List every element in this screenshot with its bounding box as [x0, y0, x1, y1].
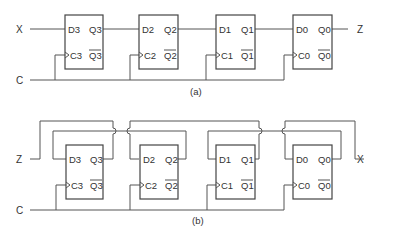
input-z-label: Z [16, 154, 22, 165]
pin-c0: C0 [298, 50, 310, 61]
caption-a: (a) [190, 86, 202, 97]
pin-d0: D0 [296, 24, 308, 35]
output-z-label: Z [357, 24, 363, 35]
pin-d0: D0 [296, 154, 308, 165]
pin-d2: D2 [142, 24, 154, 35]
diagram-a: X Z C D3 Q3 C3 Q3 D2 Q2 C2 [16, 15, 363, 97]
pin-c2: C2 [145, 180, 157, 191]
pin-q0: Q0 [318, 154, 331, 165]
pin-q2-bar: Q2 [164, 50, 177, 61]
pin-d1: D1 [219, 24, 231, 35]
clock-c-label: C [16, 205, 23, 216]
wire-d2-to-q1-end [255, 134, 259, 159]
wire-d2-to-q1-top [130, 121, 259, 128]
clock-to-c1 [206, 55, 216, 80]
pin-c1: C1 [221, 50, 233, 61]
pin-q1-bar: Q1 [241, 50, 254, 61]
clock-to-c2 [130, 185, 140, 210]
caption-b: (b) [192, 215, 204, 226]
pin-q1: Q1 [241, 24, 254, 35]
pin-d3: D3 [69, 154, 81, 165]
pin-q0-bar: Q0 [318, 50, 331, 61]
pin-q3-bar: Q3 [90, 180, 103, 191]
pin-q3-bar: Q3 [89, 50, 102, 61]
pin-q1-bar: Q1 [241, 180, 254, 191]
diagram-b: Z X C D3 Q3 C3 Q3 [16, 121, 364, 226]
flipflop-0: D0 Q0 C0 Q0 [293, 145, 332, 199]
pin-c0: C0 [298, 180, 310, 191]
flipflop-3: D3 Q3 C3 Q3 [65, 15, 103, 69]
pin-q0-bar: Q0 [318, 180, 331, 191]
pin-q0: Q0 [318, 24, 331, 35]
flipflop-0: D0 Q0 C0 Q0 [293, 15, 332, 69]
input-x-label: X [16, 24, 23, 35]
wire-z-to-q3-end [103, 134, 113, 159]
pin-c3: C3 [71, 180, 83, 191]
flipflop-1: D1 Q1 C1 Q1 [216, 145, 255, 199]
pin-q3: Q3 [90, 154, 103, 165]
pin-d2: D2 [143, 154, 155, 165]
flipflop-3: D3 Q3 C3 Q3 [66, 145, 103, 199]
wire-d0-to-x [285, 134, 293, 159]
flipflop-2: D2 Q2 C2 Q2 [139, 15, 178, 69]
pin-c3: C3 [70, 50, 82, 61]
clock-to-c2 [130, 55, 139, 80]
pin-q2: Q2 [164, 24, 177, 35]
flipflop-2: D2 Q2 C2 Q2 [140, 145, 178, 199]
clock-c-label: C [16, 75, 23, 86]
pin-q2: Q2 [165, 154, 178, 165]
clock-to-c3 [56, 185, 66, 210]
flipflop-1: D1 Q1 C1 Q1 [216, 15, 255, 69]
pin-c2: C2 [144, 50, 156, 61]
pin-d3: D3 [68, 24, 80, 35]
pin-d1: D1 [219, 154, 231, 165]
shift-register-diagram: X Z C D3 Q3 C3 Q3 D2 Q2 C2 [0, 0, 394, 232]
pin-c1: C1 [221, 180, 233, 191]
wire-d2-to-q1 [130, 134, 139, 159]
pin-q1: Q1 [241, 154, 254, 165]
clock-to-c0 [284, 185, 293, 210]
pin-q2-bar: Q2 [165, 180, 178, 191]
clock-to-c1 [207, 185, 216, 210]
clock-to-c0 [284, 55, 293, 80]
clock-to-c3 [55, 55, 65, 80]
pin-q3: Q3 [89, 24, 102, 35]
